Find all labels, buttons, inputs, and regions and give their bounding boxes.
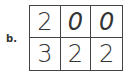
problem-label: b. (6, 33, 17, 44)
grid-cell: 0 (91, 6, 122, 38)
grid-cell: 2 (61, 38, 92, 70)
digit-grid: 2 0 0 3 2 2 (29, 5, 123, 71)
grid-cell: 0 (61, 6, 92, 38)
grid-cell: 3 (30, 38, 61, 70)
grid-cell: 2 (91, 38, 122, 70)
grid-cell: 2 (30, 6, 61, 38)
